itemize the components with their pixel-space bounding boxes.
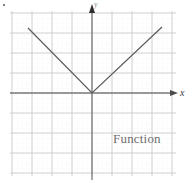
x-axis-label: x (180, 88, 184, 98)
function-caption: Function (113, 132, 161, 145)
y-axis-label: y (94, 1, 98, 9)
plot-canvas (0, 0, 192, 183)
corner-dot-artifact (3, 4, 5, 6)
function-graph-figure: x y Function (0, 0, 192, 183)
